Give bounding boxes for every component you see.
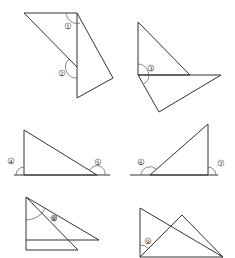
svg-text:4: 4: [9, 158, 13, 165]
panel-5: 8: [26, 197, 99, 250]
upper-triangle: [138, 22, 190, 75]
svg-text:5: 5: [96, 159, 100, 166]
triangle-ruler-angles-diagram: 1 2 3 4 5: [0, 0, 235, 258]
svg-text:8: 8: [52, 215, 56, 222]
panel-4: 6 7: [130, 124, 224, 175]
angle-arc-9: [140, 245, 148, 248]
set-square-left-hypotenuse: [24, 13, 77, 67]
panel-6: 9: [140, 208, 223, 257]
panel-3: 4 5: [8, 130, 110, 175]
svg-text:6: 6: [139, 159, 143, 166]
angle-label-5: 5: [95, 159, 101, 166]
isosceles-triangle: [140, 215, 223, 257]
right-triangle: [150, 124, 208, 175]
angle-arc-4: [16, 167, 24, 175]
angle-arc-7: [208, 167, 216, 175]
angle-label-7: 7: [218, 160, 224, 167]
panel-2: 3: [138, 22, 221, 112]
angle-label-6: 6: [138, 159, 144, 166]
svg-text:7: 7: [219, 160, 223, 167]
angle-arc-5: [90, 166, 105, 175]
svg-text:1: 1: [66, 23, 70, 30]
svg-text:9: 9: [146, 238, 150, 245]
angle-label-8: 8: [51, 215, 57, 222]
angle-label-2: 2: [59, 70, 65, 77]
angle-arc-6: [141, 167, 156, 175]
angle-label-9: 9: [145, 238, 151, 245]
lower-triangle: [138, 75, 221, 112]
angle-label-4: 4: [8, 158, 14, 165]
angle-arc-3: [138, 64, 149, 84]
angle-arc-8: [26, 209, 45, 220]
svg-text:3: 3: [149, 65, 153, 72]
panel-1: 1 2: [24, 13, 113, 98]
right-triangle: [24, 130, 97, 175]
angle-label-3: 3: [148, 65, 154, 72]
angle-label-1: 1: [65, 23, 71, 30]
svg-text:2: 2: [60, 70, 64, 77]
